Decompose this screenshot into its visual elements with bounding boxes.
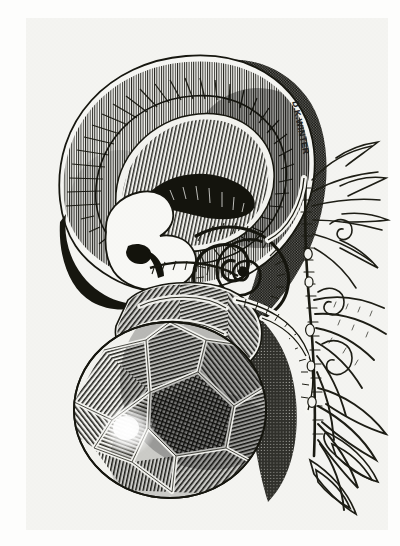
ink-illustration [0,0,400,546]
illustration-page: D.K.WINTER Pen-and-ink stipple illustrat… [0,0,400,546]
